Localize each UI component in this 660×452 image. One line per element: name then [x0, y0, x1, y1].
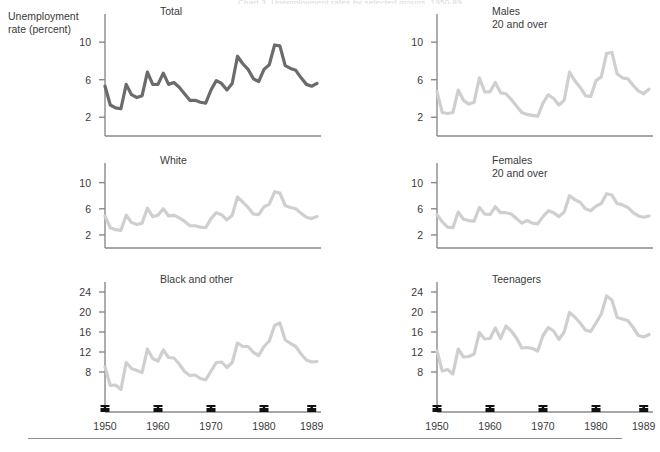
x-tick [307, 405, 316, 412]
x-tick-label: 1980 [576, 420, 616, 432]
y-tick-label: 16 [61, 327, 91, 337]
y-tick-label: 12 [61, 347, 91, 357]
x-tick [260, 405, 269, 412]
x-tick-label: 1970 [523, 420, 563, 432]
x-tick [639, 405, 648, 412]
x-tick-label: 1980 [244, 420, 284, 432]
data-series-line [437, 296, 649, 374]
y-tick-label: 24 [61, 287, 91, 297]
y-tick-label: 6 [61, 75, 91, 85]
x-tick-label: 1989 [292, 420, 332, 432]
y-tick-label: 24 [393, 287, 423, 297]
y-tick-label: 6 [393, 75, 423, 85]
data-series-line [105, 192, 317, 231]
panel-title-line2: 20 and over [492, 18, 547, 31]
panel-title-line2: 20 and over [492, 167, 547, 180]
x-tick [592, 405, 601, 412]
panel-title: Males20 and over [492, 5, 547, 31]
panel-title: Females20 and over [492, 154, 547, 180]
y-tick-label: 20 [61, 307, 91, 317]
y-tick-label: 8 [61, 367, 91, 377]
panel-title: Total [160, 5, 182, 18]
y-tick-label: 2 [393, 230, 423, 240]
chart-panel-total: 2610Total [45, 2, 327, 164]
chart-panel-males-20-and-over: 2610Males20 and over [377, 2, 659, 164]
x-tick [486, 405, 495, 412]
panel-title: Teenagers [492, 273, 541, 286]
y-tick-label: 6 [61, 204, 91, 214]
panel-title-line1: Females [492, 154, 547, 167]
x-tick-label: 1989 [624, 420, 660, 432]
data-series-line [437, 52, 649, 116]
y-tick-label: 6 [393, 204, 423, 214]
y-tick-label: 20 [393, 307, 423, 317]
x-tick-label: 1960 [138, 420, 178, 432]
y-tick-label: 10 [61, 37, 91, 47]
y-tick-label: 12 [393, 347, 423, 357]
x-tick-label: 1950 [85, 420, 125, 432]
chart-panel-white: 2610White [45, 151, 327, 276]
x-tick [101, 405, 110, 412]
chart-panel-black-and-other: 81216202419501960197019801989Black and o… [45, 270, 327, 440]
x-tick [433, 405, 442, 412]
y-tick-label: 10 [393, 37, 423, 47]
data-series-line [105, 45, 317, 109]
y-tick-label: 2 [61, 112, 91, 122]
y-tick-label: 10 [61, 178, 91, 188]
x-tick [207, 405, 216, 412]
panel-title: Black and other [160, 273, 233, 286]
panel-title: White [160, 154, 187, 167]
y-tick-label: 2 [393, 112, 423, 122]
x-tick [154, 405, 163, 412]
y-tick-label: 8 [393, 367, 423, 377]
x-tick-label: 1960 [470, 420, 510, 432]
data-series-line [437, 194, 649, 228]
chart-panel-females-20-and-over: 2610Females20 and over [377, 151, 659, 276]
data-series-line [105, 323, 317, 390]
x-tick-label: 1950 [417, 420, 457, 432]
y-tick-label: 16 [393, 327, 423, 337]
y-tick-label: 2 [61, 230, 91, 240]
x-tick [539, 405, 548, 412]
y-tick-label: 10 [393, 178, 423, 188]
chart-panel-teenagers: 81216202419501960197019801989Teenagers [377, 270, 659, 440]
x-tick-label: 1970 [191, 420, 231, 432]
panel-title-line1: Males [492, 5, 547, 18]
